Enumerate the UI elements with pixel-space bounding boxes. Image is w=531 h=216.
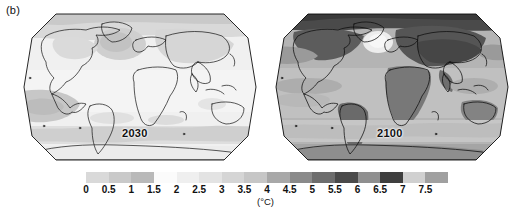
colorbar-swatch-4: [177, 172, 200, 183]
map-2030-field: [16, 8, 264, 166]
colorbar-tick-6.5: 6.5: [373, 184, 387, 195]
colorbar-swatch-8: [267, 172, 290, 183]
colorbar-tick-4: 4: [264, 184, 270, 195]
map-2030: [16, 8, 264, 166]
colorbar-swatch-13: [380, 172, 403, 183]
colorbar-swatch-11: [335, 172, 358, 183]
colorbar-swatch-14: [403, 172, 426, 183]
colorbar-swatch-9: [290, 172, 313, 183]
colorbar-swatch-5: [199, 172, 222, 183]
colorbar-tick-5: 5: [309, 184, 315, 195]
colorbar-swatch-10: [312, 172, 335, 183]
map-2100-field: [268, 8, 516, 166]
colorbar-tick-2.5: 2.5: [192, 184, 206, 195]
colorbar-tick-1: 1: [128, 184, 134, 195]
map-2100: [268, 8, 516, 166]
map-2030-svg: [16, 8, 264, 166]
colorbar-tick-3: 3: [219, 184, 225, 195]
colorbar-tick-7.5: 7.5: [418, 184, 432, 195]
colorbar-tick-0: 0: [83, 184, 89, 195]
colorbar-swatch-0: [86, 172, 109, 183]
figure-panel-b: (b): [0, 0, 531, 216]
colorbar-tick-5.5: 5.5: [328, 184, 342, 195]
colorbar-swatch-6: [222, 172, 245, 183]
colorbar-units-label: (°C): [0, 196, 531, 207]
colorbar-tick-6: 6: [355, 184, 361, 195]
colorbar-swatch-2: [131, 172, 154, 183]
colorbar-swatch-7: [244, 172, 267, 183]
colorbar-tick-0.5: 0.5: [102, 184, 116, 195]
colorbar-tick-3.5: 3.5: [237, 184, 251, 195]
map-2100-svg: [268, 8, 516, 166]
colorbar-tick-2: 2: [174, 184, 180, 195]
colorbar: [86, 172, 448, 184]
colorbar-tick-1.5: 1.5: [147, 184, 161, 195]
colorbar-swatch-12: [358, 172, 381, 183]
colorbar-tick-7: 7: [400, 184, 406, 195]
colorbar-tick-4.5: 4.5: [283, 184, 297, 195]
colorbar-swatches: [86, 172, 448, 183]
colorbar-swatch-3: [154, 172, 177, 183]
colorbar-swatch-15: [425, 172, 448, 183]
colorbar-swatch-1: [109, 172, 132, 183]
